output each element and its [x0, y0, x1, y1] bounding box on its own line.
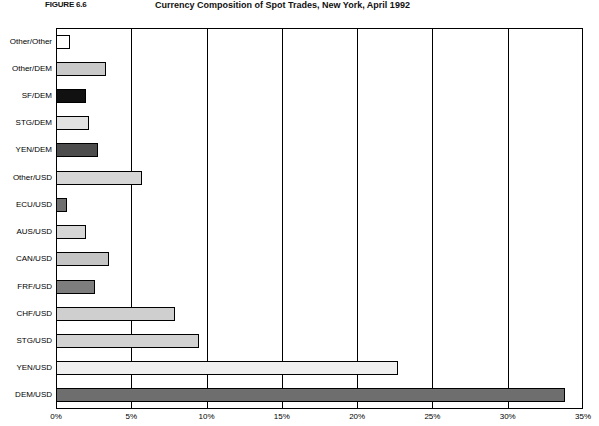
bar-yen-dem — [56, 143, 98, 157]
x-axis-tick-label: 0% — [50, 412, 62, 421]
bar-row — [56, 307, 583, 321]
x-axis-tick-label: 25% — [424, 412, 440, 421]
x-axis-tick-label: 10% — [199, 412, 215, 421]
y-axis-label-frf-usd: FRF/USD — [17, 282, 52, 291]
plot-area: 0%5%10%15%20%25%30%35% — [56, 28, 583, 409]
bar-chf-usd — [56, 307, 175, 321]
bar-other-usd — [56, 171, 142, 185]
gridline — [357, 28, 358, 409]
gridline — [282, 28, 283, 409]
gridline — [207, 28, 208, 409]
bar-aus-usd — [56, 225, 86, 239]
bar-can-usd — [56, 252, 109, 266]
bar-row — [56, 334, 583, 348]
bar-frf-usd — [56, 280, 95, 294]
x-axis-tick-label: 30% — [500, 412, 516, 421]
bar-stg-usd — [56, 334, 199, 348]
bar-row — [56, 143, 583, 157]
bar-yen-usd — [56, 361, 398, 375]
y-axis-label-sf-dem: SF/DEM — [22, 91, 52, 100]
x-axis-tick-label: 15% — [274, 412, 290, 421]
bar-row — [56, 198, 583, 212]
x-axis-tick-label: 5% — [126, 412, 138, 421]
y-axis-label-other-dem: Other/DEM — [12, 64, 52, 73]
y-axis-label-ecu-usd: ECU/USD — [16, 200, 52, 209]
bar-sf-dem — [56, 89, 86, 103]
gridline — [432, 28, 433, 409]
bar-row — [56, 252, 583, 266]
y-axis-label-aus-usd: AUS/USD — [16, 227, 52, 236]
figure-caption: FIGURE 6.6 — [45, 0, 87, 9]
y-axis-labels: Other/OtherOther/DEMSF/DEMSTG/DEMYEN/DEM… — [0, 28, 52, 409]
y-axis-label-other-usd: Other/USD — [13, 173, 52, 182]
bar-row — [56, 388, 583, 402]
bar-other-dem — [56, 62, 106, 76]
y-axis-label-yen-dem: YEN/DEM — [16, 145, 52, 154]
y-axis-label-stg-usd: STG/USD — [16, 336, 52, 345]
bar-row — [56, 171, 583, 185]
bar-row — [56, 62, 583, 76]
y-axis-label-can-usd: CAN/USD — [16, 254, 52, 263]
y-axis-label-dem-usd: DEM/USD — [15, 390, 52, 399]
bar-row — [56, 35, 583, 49]
plot-border — [56, 28, 583, 409]
bar-stg-dem — [56, 116, 89, 130]
chart-container: Other/OtherOther/DEMSF/DEMSTG/DEMYEN/DEM… — [0, 22, 599, 426]
bar-dem-usd — [56, 388, 565, 402]
bar-row — [56, 116, 583, 130]
gridline — [582, 28, 583, 409]
x-axis-tick-label: 20% — [349, 412, 365, 421]
gridline — [508, 28, 509, 409]
bar-row — [56, 361, 583, 375]
chart-title: Currency Composition of Spot Trades, New… — [155, 0, 410, 10]
y-axis-label-chf-usd: CHF/USD — [16, 309, 52, 318]
bar-row — [56, 89, 583, 103]
gridline — [131, 28, 132, 409]
bar-row — [56, 280, 583, 294]
y-axis-label-other-other: Other/Other — [10, 37, 52, 46]
bar-other-other — [56, 35, 70, 49]
y-axis-label-yen-usd: YEN/USD — [16, 363, 52, 372]
bar-row — [56, 225, 583, 239]
y-axis-label-stg-dem: STG/DEM — [16, 118, 52, 127]
bar-ecu-usd — [56, 198, 67, 212]
x-axis-tick-label: 35% — [575, 412, 591, 421]
